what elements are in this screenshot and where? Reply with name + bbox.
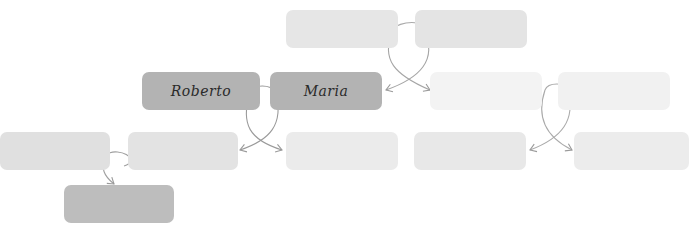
person-box[interactable] <box>558 72 670 110</box>
person-box-maria[interactable]: Maria <box>270 72 382 110</box>
person-name: Maria <box>304 83 349 99</box>
person-box[interactable] <box>128 132 238 170</box>
person-box[interactable] <box>415 10 527 48</box>
person-box[interactable] <box>430 72 542 110</box>
person-box[interactable] <box>286 132 398 170</box>
person-box[interactable] <box>64 185 174 223</box>
person-box[interactable] <box>414 132 526 170</box>
person-box[interactable] <box>0 132 110 170</box>
person-name: Roberto <box>171 83 231 99</box>
person-box-roberto[interactable]: Roberto <box>142 72 260 110</box>
person-box[interactable] <box>574 132 689 170</box>
person-box[interactable] <box>286 10 398 48</box>
